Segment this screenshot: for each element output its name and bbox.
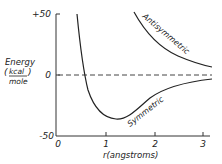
y-tick-top: +50 <box>32 9 51 19</box>
symmetric-curve <box>77 14 212 119</box>
svg-text:(: ( <box>4 67 8 77</box>
y-axis-label-energy: Energy <box>5 57 36 67</box>
x-axis-label: r(angstroms) <box>103 150 158 160</box>
symmetric-annotation: Symmetric <box>126 94 166 128</box>
x-tick-2: 2 <box>152 139 158 149</box>
x-tick-0: 0 <box>55 139 61 149</box>
x-tick-3: 3 <box>200 139 206 149</box>
y-tick-zero: 0 <box>45 70 51 80</box>
y-tick-bottom: -50 <box>39 131 54 141</box>
svg-text:): ) <box>27 67 32 77</box>
x-tick-1: 1 <box>103 139 109 149</box>
y-axis-label-unit-den: mole <box>9 77 28 86</box>
energy-chart: +50 0 -50 0 1 2 3 Energy ( kcal mole ) r… <box>0 0 222 164</box>
y-axis-label-unit-num: kcal <box>9 67 25 76</box>
